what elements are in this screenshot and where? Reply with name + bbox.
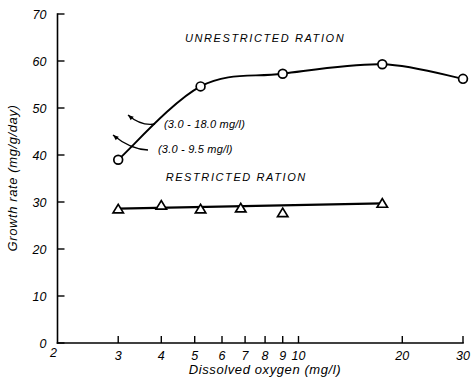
growth-rate-vs-dissolved-oxygen-chart: 010203040506070 23456789102030 UNRESTRIC…: [0, 0, 474, 381]
y-tick-label-group: 010203040506070: [32, 8, 47, 351]
chart-canvas: 010203040506070 23456789102030 UNRESTRIC…: [0, 0, 474, 381]
data-point-marker: [236, 203, 246, 212]
series-inline-label: RESTRICTED RATION: [166, 171, 307, 183]
data-point-marker: [459, 74, 468, 83]
range-annotation: (3.0 - 9.5 mg/l): [158, 143, 233, 155]
data-point-marker: [156, 201, 166, 210]
data-point-marker: [195, 204, 205, 213]
y-tick-label: 50: [33, 102, 47, 116]
annotation-group: (3.0 - 18.0 mg/l)(3.0 - 9.5 mg/l): [113, 115, 245, 155]
x-tick-label-group: 23456789102030: [49, 346, 470, 363]
x-tick-label: 30: [456, 349, 470, 363]
y-axis: 010203040506070: [32, 8, 65, 351]
data-point-marker: [278, 69, 287, 78]
x-tick-label: 7: [242, 349, 250, 363]
x-tick-label: 2: [49, 346, 57, 360]
series-inline-label: UNRESTRICTED RATION: [185, 32, 345, 44]
range-annotation: (3.0 - 18.0 mg/l): [164, 118, 245, 130]
x-tick-group: [118, 336, 463, 343]
series-restricted-ration: [113, 199, 387, 217]
data-point-marker: [278, 208, 288, 217]
x-tick-label: 4: [158, 349, 165, 363]
x-tick-label: 3: [115, 349, 122, 363]
x-tick-label: 8: [262, 349, 269, 363]
x-tick-label: 6: [219, 349, 226, 363]
x-tick-label: 10: [292, 349, 306, 363]
series-label-group: UNRESTRICTED RATIONRESTRICTED RATION: [166, 32, 346, 183]
y-tick-label: 60: [33, 55, 47, 69]
y-tick-group: [58, 14, 65, 343]
data-point-marker: [196, 82, 205, 91]
y-tick-label: 40: [33, 149, 47, 163]
y-tick-label: 20: [32, 243, 47, 257]
data-point-marker: [114, 155, 123, 164]
y-axis-title: Growth rate (mg/g/day): [5, 105, 20, 252]
x-tick-label: 20: [394, 349, 409, 363]
y-tick-label: 0: [40, 337, 47, 351]
data-point-marker: [378, 60, 387, 69]
x-tick-label: 5: [191, 349, 198, 363]
annotation-arrowhead: [128, 115, 134, 120]
y-tick-label: 10: [33, 290, 47, 304]
x-axis-title: Dissolved oxygen (mg/l): [189, 362, 342, 377]
y-tick-label: 30: [33, 196, 47, 210]
x-tick-label: 9: [279, 349, 286, 363]
x-axis: 23456789102030: [49, 336, 470, 363]
y-tick-label: 70: [33, 8, 47, 22]
